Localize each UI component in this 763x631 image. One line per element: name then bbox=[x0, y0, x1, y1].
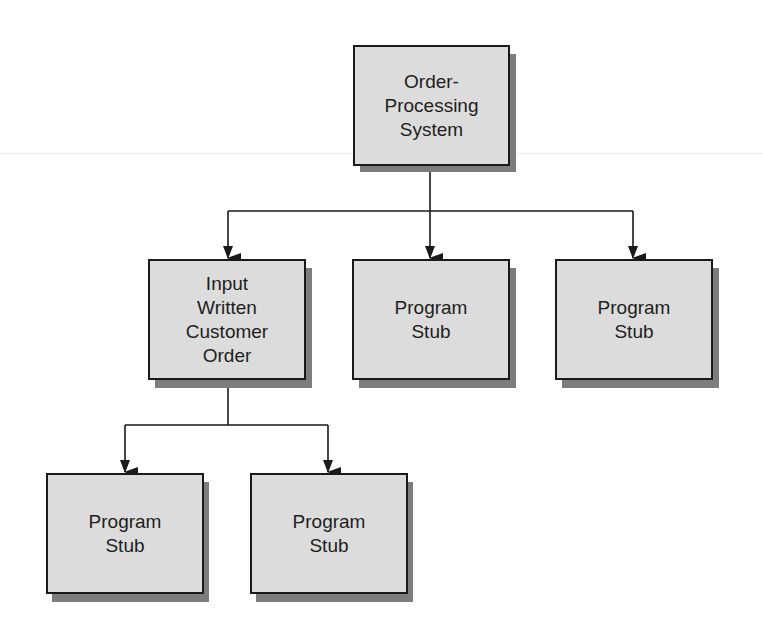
node-label: Program Stub bbox=[89, 510, 162, 558]
node-program-stub-4[interactable]: Program Stub bbox=[250, 473, 408, 594]
node-program-stub-1[interactable]: Program Stub bbox=[352, 259, 510, 380]
node-label: Order- Processing System bbox=[385, 70, 479, 142]
node-label: Program Stub bbox=[395, 296, 468, 344]
node-program-stub-2[interactable]: Program Stub bbox=[555, 259, 713, 380]
node-program-stub-3[interactable]: Program Stub bbox=[46, 473, 204, 594]
node-order-processing-system[interactable]: Order- Processing System bbox=[353, 45, 510, 166]
node-label: Program Stub bbox=[598, 296, 671, 344]
node-label: Input Written Customer Order bbox=[186, 272, 268, 368]
node-label: Program Stub bbox=[293, 510, 366, 558]
node-input-written-customer-order[interactable]: Input Written Customer Order bbox=[148, 259, 306, 380]
